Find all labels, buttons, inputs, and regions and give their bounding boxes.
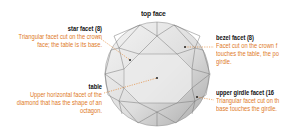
star-facet-heading: star facet (8) bbox=[4, 25, 102, 33]
label-upper-girdle-facet: upper girdle facet (16 Triangular facet … bbox=[216, 89, 279, 113]
star-facet-description-2: face; the table is its base. bbox=[4, 41, 102, 49]
table-description-1: Upper horizontal facet of the bbox=[0, 91, 102, 99]
label-bezel-facet: bezel facet (8) Facet cut on the crown f… bbox=[216, 34, 279, 66]
bezel-facet-description-1: Facet cut on the crown f bbox=[216, 42, 279, 50]
table-description-3: octagon. bbox=[0, 107, 102, 115]
star-facet-description-1: Triangular facet cut on the crown bbox=[4, 33, 102, 41]
upper-girdle-facet-description-2: base touches the girdle. bbox=[216, 105, 279, 113]
label-star-facet: star facet (8) Triangular facet cut on t… bbox=[4, 25, 102, 49]
table-heading: table bbox=[0, 83, 102, 91]
table-description-2: diamond that has the shape of an bbox=[0, 99, 102, 107]
upper-girdle-facet-heading: upper girdle facet (16 bbox=[216, 89, 279, 97]
upper-girdle-facet-description-1: Triangular facet cut on th bbox=[216, 97, 279, 105]
bezel-facet-description-3: girdle. bbox=[216, 58, 279, 66]
diamond-icon bbox=[97, 22, 214, 126]
bezel-facet-heading: bezel facet (8) bbox=[216, 34, 279, 42]
bezel-facet-description-2: touches the table, the po bbox=[216, 50, 279, 58]
label-table: table Upper horizontal facet of the diam… bbox=[0, 83, 102, 115]
